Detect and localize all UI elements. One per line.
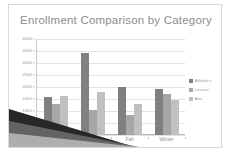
bar-leisure-spring[interactable] — [52, 104, 60, 135]
x-axis-tick-label: Summer — [74, 137, 111, 142]
bar-group-spring — [37, 39, 74, 135]
y-axis-tick-mark — [33, 111, 35, 112]
legend-label: Athletics — [195, 79, 212, 83]
y-axis-tick-mark — [33, 63, 35, 64]
legend-swatch-icon — [189, 79, 193, 83]
bar-group-fall — [111, 39, 148, 135]
y-axis-tick-label: 2000 — [22, 85, 32, 89]
y-axis-tick-mark — [33, 51, 35, 52]
y-axis-tick-mark — [33, 87, 35, 88]
slide-root: Enrollment Comparison by Category 400035… — [0, 0, 231, 168]
chart-legend: AthleticsLeisureArts — [189, 79, 222, 106]
x-axis-tick-mark — [111, 137, 112, 139]
bar-leisure-fall[interactable] — [126, 115, 134, 135]
y-axis-tick-label: 0 — [30, 133, 32, 137]
bar-athletics-spring[interactable] — [44, 97, 52, 135]
y-axis-labels: 40003500300025002000150010005000 — [9, 39, 35, 135]
legend-label: Leisure — [195, 88, 209, 92]
y-axis-tick-label: 3000 — [22, 61, 32, 65]
bar-athletics-winter[interactable] — [155, 89, 163, 135]
bar-leisure-winter[interactable] — [163, 94, 171, 135]
legend-swatch-icon — [189, 88, 193, 92]
bar-arts-winter[interactable] — [171, 100, 179, 135]
chart-title: Enrollment Comparison by Category — [9, 14, 222, 26]
y-axis-tick-label: 500 — [25, 121, 32, 125]
x-axis-tick-mark — [185, 137, 186, 139]
bar-athletics-summer[interactable] — [81, 53, 89, 135]
x-axis-tick-label: Spring — [37, 137, 74, 142]
bar-athletics-fall[interactable] — [118, 87, 126, 135]
legend-item-leisure[interactable]: Leisure — [189, 88, 222, 92]
bar-arts-spring[interactable] — [60, 96, 68, 135]
legend-swatch-icon — [189, 97, 193, 101]
y-axis-tick-label: 3500 — [22, 49, 32, 53]
legend-label: Arts — [195, 97, 203, 101]
bar-series-layer — [37, 39, 185, 135]
x-axis-tick-label: Winter — [148, 137, 185, 142]
y-axis-tick-mark — [33, 135, 35, 136]
x-axis-tick-mark — [148, 137, 149, 139]
x-axis-tick-mark — [74, 137, 75, 139]
bar-group-winter — [148, 39, 185, 135]
bar-leisure-summer[interactable] — [89, 110, 97, 135]
legend-item-arts[interactable]: Arts — [189, 97, 222, 101]
bar-arts-fall[interactable] — [134, 104, 142, 135]
y-axis-tick-label: 2500 — [22, 73, 32, 77]
y-axis-tick-label: 1000 — [22, 109, 32, 113]
y-axis-tick-mark — [33, 123, 35, 124]
y-axis-tick-mark — [33, 99, 35, 100]
legend-item-athletics[interactable]: Athletics — [189, 79, 222, 83]
y-axis-tick-mark — [33, 39, 35, 40]
x-axis-tick-label: Fall — [111, 137, 148, 142]
chart-slide-canvas: Enrollment Comparison by Category 400035… — [8, 4, 222, 148]
x-axis-labels: SpringSummerFallWinter — [37, 137, 185, 142]
bar-arts-summer[interactable] — [97, 92, 105, 135]
plot-area — [37, 39, 185, 135]
y-axis-tick-mark — [33, 75, 35, 76]
y-axis-tick-label: 1500 — [22, 97, 32, 101]
y-axis-tick-label: 4000 — [22, 37, 32, 41]
x-axis-tick-mark — [37, 137, 38, 139]
bar-group-summer — [74, 39, 111, 135]
